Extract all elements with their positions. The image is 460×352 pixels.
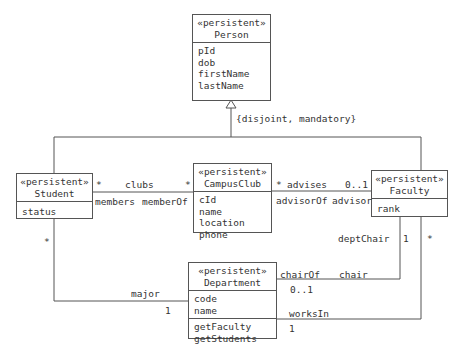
attribute: firstName xyxy=(198,68,265,80)
campusclub-attributes: cId name location phone xyxy=(194,191,271,242)
attribute: dob xyxy=(198,57,265,69)
class-faculty[interactable]: «persistent» Faculty rank xyxy=(371,170,448,217)
attribute: location xyxy=(199,217,266,229)
association-major xyxy=(54,218,188,301)
chair-mult-faculty: 1 xyxy=(403,233,409,244)
person-name: Person xyxy=(196,29,267,41)
advises-mult-club: * xyxy=(276,179,282,190)
operation: getStudents xyxy=(194,333,271,345)
class-campusclub[interactable]: «persistent» CampusClub cId name locatio… xyxy=(193,163,272,233)
attribute: pId xyxy=(198,45,265,57)
person-attributes: pId dob firstName lastName xyxy=(193,42,270,93)
association-worksin xyxy=(276,216,421,319)
department-name: Department xyxy=(192,277,273,289)
student-name: Student xyxy=(20,188,89,200)
chair-mult-department: 0..1 xyxy=(290,284,313,295)
generalization-constraint: {disjoint, mandatory} xyxy=(236,113,356,124)
major-name: major xyxy=(131,288,160,299)
attribute: cId xyxy=(199,194,266,206)
generalization-triangle xyxy=(226,100,236,108)
department-attributes: code name xyxy=(189,290,276,318)
advises-name: advises xyxy=(287,179,327,190)
worksin-role-department: worksIn xyxy=(289,308,329,319)
advises-role-faculty: advisor xyxy=(332,195,372,206)
campusclub-name: CampusClub xyxy=(197,178,268,190)
advises-role-club: advisorOf xyxy=(276,195,327,206)
department-operations: getFaculty getStudents xyxy=(189,318,276,346)
attribute: name xyxy=(194,305,271,317)
clubs-role-club: memberOf xyxy=(142,196,188,207)
person-stereotype: «persistent» xyxy=(196,17,267,29)
campusclub-stereotype: «persistent» xyxy=(197,166,268,178)
attribute: phone xyxy=(199,229,266,241)
attribute: name xyxy=(199,206,266,218)
operation: getFaculty xyxy=(194,321,271,333)
clubs-name: clubs xyxy=(125,179,154,190)
faculty-stereotype: «persistent» xyxy=(375,173,444,185)
attribute: code xyxy=(194,293,271,305)
student-stereotype: «persistent» xyxy=(20,176,89,188)
class-department[interactable]: «persistent» Department code name getFac… xyxy=(188,262,277,339)
major-mult-department: 1 xyxy=(165,305,171,316)
class-student[interactable]: «persistent» Student status xyxy=(16,173,93,219)
department-stereotype: «persistent» xyxy=(192,265,273,277)
student-attributes: status xyxy=(17,201,92,220)
faculty-name: Faculty xyxy=(375,185,444,197)
attribute: rank xyxy=(377,203,442,215)
attribute: lastName xyxy=(198,80,265,92)
attribute: status xyxy=(22,206,87,218)
chair-role-faculty: chair xyxy=(339,269,368,280)
worksin-mult-faculty: * xyxy=(427,233,433,244)
chair-role-department: chairOf xyxy=(280,269,320,280)
major-mult-student: * xyxy=(44,236,50,247)
chair-faculty-end-label: deptChair xyxy=(338,233,389,244)
advises-mult-faculty: 0..1 xyxy=(345,179,368,190)
worksin-mult-department: 1 xyxy=(289,323,295,334)
clubs-mult-club: * xyxy=(185,179,191,190)
class-person[interactable]: «persistent» Person pId dob firstName la… xyxy=(192,14,271,101)
clubs-mult-student: * xyxy=(96,179,102,190)
faculty-attributes: rank xyxy=(372,198,447,217)
clubs-role-student: members xyxy=(95,196,135,207)
